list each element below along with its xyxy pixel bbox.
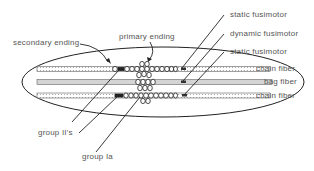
muscle-spindle-diagram: secondary ending primary ending static f…: [0, 0, 314, 171]
group-Ia-line: [96, 97, 140, 152]
primary-ending-label: primary ending: [119, 32, 175, 41]
dynamic-fusimotor-label: dynamic fusimotor: [230, 29, 298, 38]
secondary-ending-label: secondary ending: [13, 38, 79, 47]
group-II-label: group II's: [38, 128, 73, 137]
chain-fiber-top-label: chain fiber: [256, 64, 295, 73]
endplate-top-chain: [181, 68, 186, 71]
group-Ia-label: group Ia: [82, 152, 113, 161]
secondary-ending-top-coils: [113, 66, 178, 71]
static-fusimotor-bottom-label: static fusimotor: [230, 47, 287, 56]
chain-fiber-bottom-label: chain fiber: [256, 91, 295, 100]
secondary-ending-bottom-coils: [115, 93, 178, 98]
static-fusimotor-top-label: static fusimotor: [230, 10, 287, 19]
primary-ending-arrow: [147, 42, 153, 62]
bag-fiber-label: bag fiber: [264, 77, 297, 86]
secondary-ending-arrow: [80, 44, 111, 64]
